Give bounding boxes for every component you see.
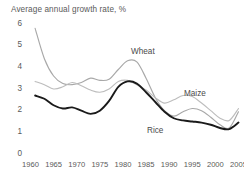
series-line-wheat (35, 28, 238, 128)
growth-rate-line-chart: Average annual growth rate, % 0123456 19… (0, 0, 244, 179)
series-line-rice (35, 81, 238, 129)
series-paths (35, 28, 238, 129)
series-label-wheat: Wheat (131, 48, 155, 56)
series-label-rice: Rice (147, 127, 163, 135)
plot-area (0, 0, 244, 179)
series-label-maize: Maize (184, 90, 206, 98)
